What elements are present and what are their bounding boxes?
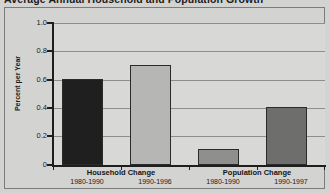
bar-population-1990-1997: [266, 107, 307, 165]
gridline-0.8: [53, 51, 325, 52]
y-tick-mark-0.2: [47, 135, 53, 137]
chart-frame: 1.0 0.8 0.6 0.4 0.2 0 Percent per Year H…: [4, 7, 325, 189]
y-tick-mark-0.6: [47, 79, 53, 81]
bar-household-1990-1996: [130, 65, 171, 165]
y-tick-mark-0.8: [47, 50, 53, 52]
period-label-population-1990-1997: 1990-1997: [257, 177, 325, 186]
y-tick-mark-1.0: [47, 22, 53, 24]
bar-population-1980-1990: [198, 149, 239, 165]
chart-title: Average Annual Household and Population …: [4, 0, 326, 5]
period-label-household-1980-1990: 1980-1990: [53, 177, 121, 186]
y-tick-mark-0.4: [47, 107, 53, 109]
bar-household-1980-1990: [62, 79, 103, 165]
y-tick-label-0: 0: [7, 161, 47, 169]
group-label-household-change: Household Change: [53, 168, 189, 177]
period-label-household-1990-1996: 1990-1996: [121, 177, 189, 186]
period-label-population-1980-1990: 1980-1990: [189, 177, 257, 186]
chart-figure: Average Annual Household and Population …: [0, 0, 330, 193]
y-axis-title: Percent per Year: [14, 48, 21, 120]
y-tick-labels: 1.0 0.8 0.6 0.4 0.2 0: [5, 8, 47, 193]
y-tick-label-1.0: 1.0: [7, 19, 47, 27]
y-tick-label-0.2: 0.2: [7, 132, 47, 140]
plot-area: [53, 23, 325, 165]
y-axis-spine: [52, 22, 54, 167]
group-label-population-change: Population Change: [189, 168, 325, 177]
gridline-1.0: [53, 23, 325, 24]
